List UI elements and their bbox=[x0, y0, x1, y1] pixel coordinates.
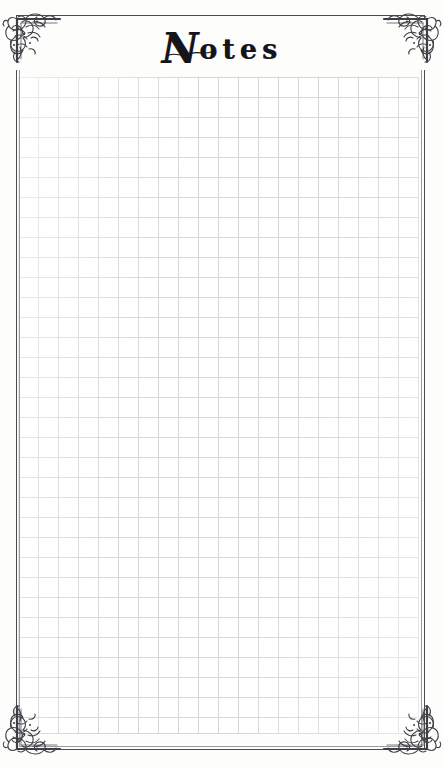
title-remainder: otes bbox=[199, 32, 282, 65]
page-title-band: Notes bbox=[0, 18, 444, 70]
graph-paper-grid[interactable] bbox=[18, 77, 419, 734]
page-title: Notes bbox=[162, 23, 282, 65]
notes-page: Notes bbox=[0, 0, 444, 768]
title-initial-capital: N bbox=[162, 23, 199, 72]
